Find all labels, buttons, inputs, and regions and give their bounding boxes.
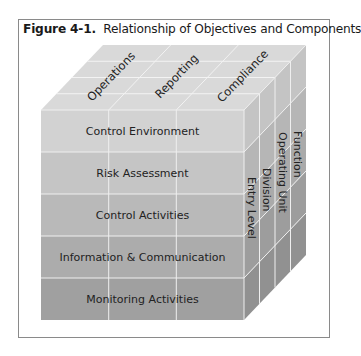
component-control-environment: Control Environment: [86, 125, 200, 138]
entity-operating-unit: Operating Unit: [276, 132, 289, 214]
component-monitoring-activities: Monitoring Activities: [86, 293, 199, 306]
entity-entry-level: Entry Level: [245, 177, 258, 239]
component-risk-assessment: Risk Assessment: [96, 167, 189, 180]
component-information-communication: Information & Communication: [60, 251, 226, 264]
component-control-activities: Control Activities: [96, 209, 190, 222]
entity-division: Division: [260, 168, 273, 212]
entity-function: Function: [291, 131, 304, 178]
